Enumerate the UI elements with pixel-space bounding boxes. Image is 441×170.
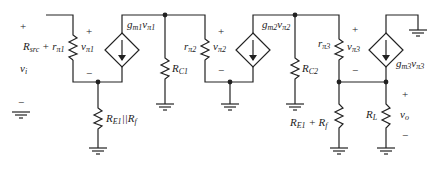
resistor-re1-rf-label: RE1||Rf	[105, 112, 138, 126]
source-plus-sign: +	[20, 20, 26, 32]
ground-icon-rl	[377, 148, 395, 154]
resistor-rpi2-label: rπ2	[184, 40, 196, 54]
vpi1-label: vπ1	[81, 40, 94, 54]
ground-icon-re3	[330, 148, 348, 154]
gm3-label: gm3vπ3	[396, 57, 424, 71]
source-ground-icon	[12, 112, 30, 118]
vo-minus-sign: −	[402, 129, 408, 141]
circuit-schematic: + v_ivi − Rsrc + rπ1 + vπ1 − RE1||Rf gm1…	[0, 0, 441, 170]
vpi1-plus-sign: +	[86, 25, 92, 37]
gm2-label: gm2vπ2	[262, 18, 290, 32]
vpi1-minus-sign: −	[86, 67, 92, 79]
vpi2-minus-sign: −	[218, 64, 224, 76]
resistor-rpi3	[335, 35, 343, 82]
resistor-rc2-label: RC2	[301, 62, 318, 76]
vo-label: vo	[400, 108, 409, 122]
resistor-rpi3-label: rπ3	[318, 37, 330, 51]
ground-icon-rc2	[286, 104, 304, 110]
vpi2-label: vπ2	[213, 40, 226, 54]
vpi3-plus-sign: +	[352, 23, 358, 35]
vpi2-plus-sign: +	[218, 25, 224, 37]
vpi3-minus-sign: −	[352, 64, 358, 76]
source-minus-sign: −	[18, 96, 24, 108]
ground-icon-emitter2	[221, 104, 239, 110]
resistor-rsrc-rpi1	[69, 30, 77, 60]
resistor-rc1	[161, 15, 169, 104]
resistor-re1-plus-rf-label: RE1 + Rf	[289, 116, 329, 130]
gm1-label: gm1vπ1	[127, 18, 155, 32]
ground-icon-rc1	[156, 104, 174, 110]
source-label: v_ivi	[20, 62, 27, 76]
circuit-diagram: + v_ivi − Rsrc + rπ1 + vπ1 − RE1||Rf gm1…	[0, 0, 441, 170]
resistor-re1-rf	[94, 104, 102, 148]
resistor-rl	[382, 82, 390, 148]
resistor-rc2	[291, 15, 299, 104]
vo-plus-sign: +	[402, 88, 408, 100]
resistor-rc1-label: RC1	[171, 62, 188, 76]
resistor-rl-label: RL	[365, 108, 378, 122]
resistor-re1-plus-rf	[335, 82, 343, 148]
ground-icon-gm3	[409, 30, 427, 36]
ground-icon-re1	[89, 148, 107, 154]
resistor-rsrc-rpi1-label: Rsrc + rπ1	[22, 40, 64, 54]
vpi3-label: vπ3	[347, 40, 360, 54]
